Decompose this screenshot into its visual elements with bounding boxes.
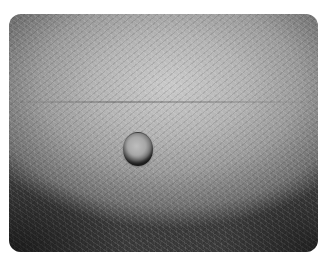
skin-nodule (123, 132, 153, 166)
photo-vignette (9, 14, 318, 252)
skin-photo (9, 14, 318, 252)
